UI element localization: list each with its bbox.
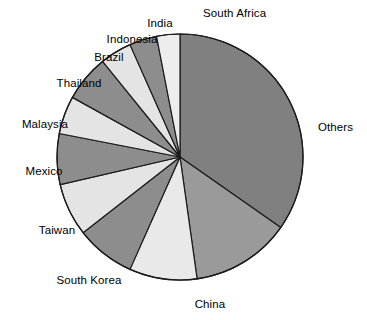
pie-label-india: India	[147, 18, 172, 30]
pie-label-china: China	[195, 299, 226, 311]
pie-slice-group	[57, 34, 303, 280]
pie-label-thailand: Thailand	[57, 78, 102, 90]
pie-chart-figure: South AfricaIndiaIndonesiaBrazilThailand…	[0, 0, 367, 320]
pie-label-brazil: Brazil	[94, 52, 123, 64]
pie-label-indonesia: Indonesia	[107, 34, 158, 46]
pie-chart-canvas	[0, 0, 367, 320]
pie-label-taiwan: Taiwan	[39, 225, 75, 237]
pie-label-mexico: Mexico	[25, 166, 62, 178]
pie-label-malaysia: Malaysia	[22, 119, 68, 131]
pie-label-others: Others	[318, 122, 353, 134]
pie-label-south-africa: South Africa	[203, 8, 266, 20]
pie-label-south-korea: South Korea	[56, 275, 121, 287]
